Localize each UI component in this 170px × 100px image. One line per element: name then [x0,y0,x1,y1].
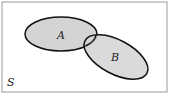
universe-label: S [7,76,15,89]
venn-diagram: A B S [0,0,170,100]
set-a-label: A [56,29,65,42]
set-b-label: B [110,51,119,64]
